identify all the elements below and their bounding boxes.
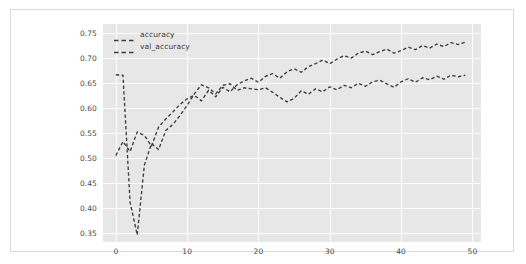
- legend-label: val_accuracy: [140, 42, 190, 51]
- y-tick-label: 0.75: [17, 28, 103, 37]
- legend-entry-val_accuracy: val_accuracy: [113, 42, 190, 51]
- x-axis-tick-labels: 01020304050: [103, 247, 481, 259]
- y-tick-label: 0.35: [17, 229, 103, 238]
- y-tick-label: 0.70: [17, 53, 103, 62]
- x-tick-label: 10: [182, 247, 192, 256]
- y-tick-label: 0.40: [17, 204, 103, 213]
- legend-label: accuracy: [140, 30, 175, 39]
- y-tick-label: 0.60: [17, 103, 103, 112]
- legend-line-swatch: [113, 42, 135, 51]
- legend-line-swatch: [113, 30, 135, 39]
- x-tick-label: 0: [113, 247, 118, 256]
- x-tick-label: 50: [468, 247, 478, 256]
- plot-area: accuracyval_accuracy: [103, 24, 481, 242]
- chart-legend: accuracyval_accuracy: [109, 28, 195, 54]
- x-tick-label: 40: [396, 247, 406, 256]
- x-tick-label: 30: [325, 247, 335, 256]
- series-line-val_accuracy: [116, 75, 465, 235]
- legend-entry-accuracy: accuracy: [113, 30, 190, 39]
- series-line-accuracy: [116, 42, 465, 156]
- y-tick-label: 0.65: [17, 78, 103, 87]
- chart-curves: [103, 24, 481, 242]
- y-axis-tick-labels: 0.350.400.450.500.550.600.650.700.75: [11, 24, 103, 242]
- y-tick-label: 0.50: [17, 154, 103, 163]
- x-tick-label: 20: [254, 247, 264, 256]
- figure-frame: 0.350.400.450.500.550.600.650.700.75 acc…: [10, 9, 514, 252]
- y-tick-label: 0.45: [17, 179, 103, 188]
- y-tick-label: 0.55: [17, 129, 103, 138]
